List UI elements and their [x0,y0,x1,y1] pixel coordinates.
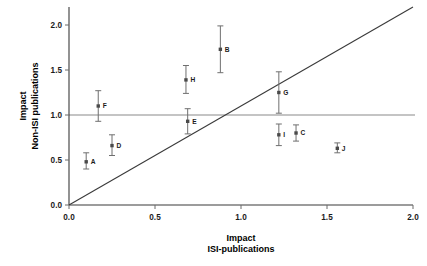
y-axis-title-line2: Non-ISI publications [30,63,40,150]
y-tick-label: 1.5 [51,66,63,75]
x-tick-label: 1.0 [235,213,247,222]
y-tick-label: 1.0 [51,111,63,120]
data-point-marker [294,131,297,134]
x-axis-title-line2: ISI-publications [207,244,274,254]
data-point-group: F [95,91,107,122]
data-point-marker [184,78,187,81]
data-point-marker [110,144,113,147]
data-point-group: H [183,66,196,94]
reference-line-diagonal [69,7,413,205]
data-point-marker [219,48,222,51]
x-tick-label: 0.5 [149,213,161,222]
data-point-label: E [192,118,197,125]
data-point-marker [336,147,339,150]
x-tick-label: 0.0 [63,213,75,222]
x-tick-label: 1.5 [321,213,333,222]
data-point-marker [186,120,189,123]
data-point-marker [277,133,280,136]
data-point-label: J [342,145,346,152]
x-tick-label: 2.0 [407,213,419,222]
data-point-group: G [276,72,289,113]
data-point-label: I [283,131,285,138]
data-point-label: C [301,129,306,136]
data-point-group: C [293,125,306,141]
y-tick-label: 0.5 [51,156,63,165]
data-point-marker [277,91,280,94]
data-point-label: A [91,158,96,165]
scatter-chart: 0.00.51.01.52.00.00.51.01.52.0ABCDEFGHIJ… [0,0,427,266]
y-tick-label: 2.0 [51,21,63,30]
y-tick-label: 0.0 [51,201,63,210]
data-point-label: G [283,89,288,96]
data-point-group: J [334,143,346,153]
data-point-label: H [190,76,195,83]
data-point-group: I [276,124,286,146]
data-point-group: A [83,153,96,169]
data-point-marker [85,160,88,163]
y-axis-title-line1: Impact [18,91,28,120]
x-axis-title-line1: Impact [226,233,255,243]
data-point-label: D [117,142,122,149]
plot-area: 0.00.51.01.52.00.00.51.01.52.0ABCDEFGHIJ… [0,0,427,266]
data-point-marker [97,104,100,107]
data-point-label: F [103,102,107,109]
data-point-group: D [109,135,122,156]
data-point-label: B [225,46,230,53]
data-point-group: B [217,26,230,73]
data-point-group: E [185,109,198,134]
